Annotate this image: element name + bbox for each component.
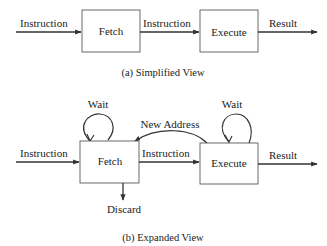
execute-label: Execute [211, 26, 247, 38]
expanded-view: Wait Wait New Address Instruction Fetch … [16, 98, 317, 244]
caption-a: (a) Simplified View [121, 67, 205, 79]
fetch-label-b: Fetch [98, 155, 123, 167]
new-address-arrow [135, 131, 207, 143]
fetch-wait-arrowhead [87, 134, 94, 141]
fetch-wait-label: Wait [88, 98, 109, 110]
pipeline-diagram: Instruction Fetch Instruction Execute Re… [0, 0, 327, 246]
new-address-label: New Address [141, 118, 200, 130]
execute-wait-label: Wait [222, 98, 243, 110]
output-label-b: Result [269, 149, 297, 161]
output-label: Result [269, 17, 297, 29]
input-label-b: Instruction [20, 147, 68, 159]
fetch-label: Fetch [99, 25, 124, 37]
discard-label: Discard [107, 203, 142, 215]
caption-b: (b) Expanded View [122, 232, 204, 244]
middle-label-b: Instruction [142, 147, 190, 159]
middle-label: Instruction [143, 17, 191, 29]
simplified-view: Instruction Fetch Instruction Execute Re… [16, 10, 317, 79]
input-label: Instruction [20, 17, 68, 29]
execute-label-b: Execute [211, 157, 247, 169]
